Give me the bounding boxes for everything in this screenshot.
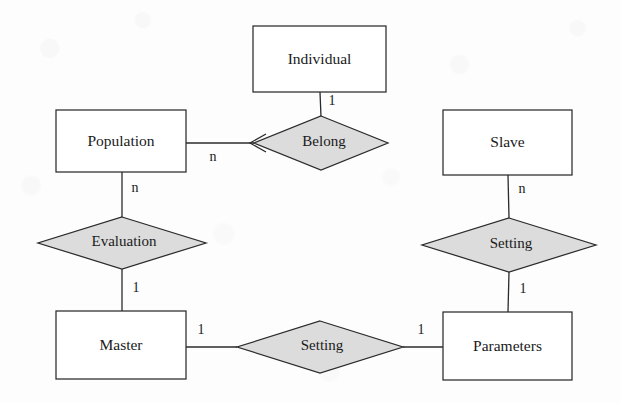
relationship-evaluation-label: Evaluation — [92, 233, 157, 249]
connector-individual-belong — [320, 92, 321, 117]
entity-population-label: Population — [87, 132, 154, 149]
cardinality-individual-belong: 1 — [329, 93, 336, 108]
cardinality-slave-setting: n — [519, 181, 526, 196]
cardinality-population-belong: n — [210, 149, 217, 164]
relationship-belong-label: Belong — [302, 133, 346, 149]
relationship-evaluation[interactable]: Evaluation — [38, 217, 206, 269]
relationship-belong[interactable]: Belong — [254, 116, 388, 170]
relationship-setting-master[interactable]: Setting — [237, 321, 403, 373]
relationship-setting-slave-label: Setting — [490, 235, 533, 251]
cardinality-setting-parameters-side: 1 — [418, 322, 425, 337]
cardinality-master-setting: 1 — [198, 322, 205, 337]
entity-master-label: Master — [99, 336, 143, 353]
entity-population[interactable]: Population — [56, 110, 186, 172]
cardinality-population-evaluation: n — [132, 180, 139, 195]
entity-slave[interactable]: Slave — [443, 110, 572, 175]
entity-master[interactable]: Master — [56, 311, 186, 379]
relationship-setting-slave[interactable]: Setting — [422, 218, 596, 272]
er-diagram-canvas: Individual Population Slave Master Param… — [0, 0, 621, 403]
entity-individual[interactable]: Individual — [253, 26, 386, 92]
er-diagram-svg: Individual Population Slave Master Param… — [0, 0, 621, 403]
entity-individual-label: Individual — [288, 50, 352, 67]
cardinality-setting-parameters: 1 — [520, 281, 527, 296]
connector-setting-parameters — [508, 272, 509, 312]
cardinality-evaluation-master: 1 — [133, 280, 140, 295]
entity-parameters[interactable]: Parameters — [443, 312, 572, 380]
entity-slave-label: Slave — [490, 133, 525, 150]
entity-parameters-label: Parameters — [473, 337, 542, 354]
relationship-setting-master-label: Setting — [301, 337, 344, 353]
connector-slave-setting — [508, 175, 509, 218]
